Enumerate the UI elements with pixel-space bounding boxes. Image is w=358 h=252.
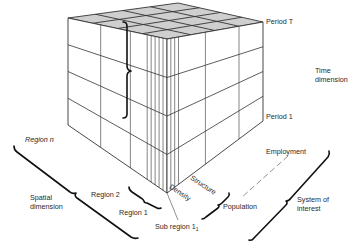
region-n-text: Region n xyxy=(25,135,54,144)
left-face-outline xyxy=(68,18,167,193)
cube-left-face xyxy=(68,18,167,193)
period-t-label: Period T xyxy=(266,18,293,27)
subregion-text: Sub region 1 xyxy=(155,222,196,231)
subregion-label: Sub region 11 xyxy=(155,223,199,234)
region-brace xyxy=(129,187,161,209)
system-dimension-line2: interest xyxy=(297,205,329,214)
region-1-label: Region 1 xyxy=(119,209,148,218)
subregion-subscript: 1 xyxy=(196,226,199,232)
spatial-dimension-line2: dimension xyxy=(30,203,63,212)
data-cube-diagram xyxy=(0,0,358,252)
system-dimension-label: System of interest xyxy=(297,196,329,213)
time-dimension-line2: dimension xyxy=(315,76,348,85)
time-dimension-label: Time dimension xyxy=(315,67,348,84)
period-1-label: Period 1 xyxy=(266,113,293,122)
region-2-label: Region 2 xyxy=(91,191,120,200)
right-face-outline xyxy=(167,22,263,193)
population-label: Population xyxy=(223,203,257,212)
employment-dashed-line xyxy=(241,156,288,198)
employment-label: Employment xyxy=(266,148,306,157)
region-n-label: Region n xyxy=(25,136,54,145)
cube-right-face xyxy=(167,22,263,193)
subregion-leader-line xyxy=(167,193,178,220)
spatial-dimension-label: Spatial dimension xyxy=(30,194,63,211)
